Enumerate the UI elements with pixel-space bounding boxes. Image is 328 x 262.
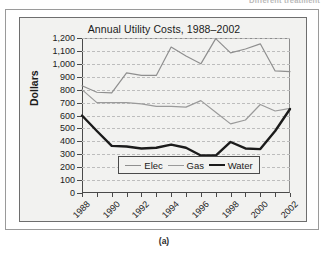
- x-axis-tick: [275, 193, 276, 197]
- y-axis-label: 400: [60, 136, 75, 146]
- legend-item-elec[interactable]: Elec: [125, 160, 162, 171]
- x-axis-tick: [156, 193, 157, 197]
- y-axis-label: 1,200: [52, 33, 75, 43]
- x-axis-label: 2000: [249, 199, 270, 220]
- y-axis-label: 800: [60, 85, 75, 95]
- running-head: Different treatment: [0, 0, 328, 7]
- series-line-water: [82, 109, 290, 156]
- x-axis-tick: [97, 193, 98, 197]
- running-head-text: Different treatment: [249, 0, 320, 5]
- plot-area: 01002003004005006007008009001,0001,1001,…: [82, 38, 290, 193]
- x-axis-tick: [141, 193, 142, 197]
- chart-legend: ElecGasWater: [118, 156, 260, 174]
- y-axis-label: 500: [60, 123, 75, 133]
- figure-caption: (a): [0, 236, 328, 246]
- x-axis-label: 2002: [279, 199, 300, 220]
- x-axis-tick: [82, 193, 83, 197]
- x-axis-tick: [127, 193, 128, 197]
- legend-item-water[interactable]: Water: [209, 160, 253, 171]
- x-axis-label: 1994: [160, 199, 181, 220]
- legend-swatch-icon: [209, 164, 225, 166]
- x-axis-label: 1996: [190, 199, 211, 220]
- x-axis-tick: [231, 193, 232, 197]
- y-axis-label: 700: [60, 98, 75, 108]
- x-axis-label: 1992: [130, 199, 151, 220]
- legend-item-gas[interactable]: Gas: [168, 160, 204, 171]
- x-axis-label: 1998: [219, 199, 240, 220]
- y-axis-label: 900: [60, 72, 75, 82]
- y-axis-label: 300: [60, 149, 75, 159]
- legend-label: Water: [228, 160, 253, 171]
- x-axis-label: 1988: [71, 199, 92, 220]
- y-axis-label: 0: [70, 188, 75, 198]
- series-line-elec: [82, 39, 290, 93]
- chart-panel: Annual Utility Costs, 1988–2002 Dollars …: [19, 17, 307, 222]
- y-axis-label: 100: [60, 175, 75, 185]
- x-axis-tick: [171, 193, 172, 197]
- legend-swatch-icon: [125, 165, 141, 166]
- x-axis-label: 1990: [101, 199, 122, 220]
- y-axis-title: Dollars: [28, 70, 40, 106]
- series-line-gas: [82, 90, 290, 124]
- x-axis-tick: [290, 193, 291, 197]
- y-axis-label: 600: [60, 111, 75, 121]
- y-axis-label: 200: [60, 162, 75, 172]
- legend-swatch-icon: [168, 165, 184, 166]
- legend-label: Elec: [144, 160, 162, 171]
- x-axis-tick: [186, 193, 187, 197]
- x-axis-tick: [201, 193, 202, 197]
- legend-label: Gas: [187, 160, 204, 171]
- x-axis-tick: [112, 193, 113, 197]
- figure-box: Annual Utility Costs, 1988–2002 Dollars …: [5, 9, 319, 230]
- x-axis-tick: [216, 193, 217, 197]
- x-axis-tick: [260, 193, 261, 197]
- y-axis-label: 1,100: [52, 46, 75, 56]
- y-axis-label: 1,000: [52, 59, 75, 69]
- x-axis-tick: [245, 193, 246, 197]
